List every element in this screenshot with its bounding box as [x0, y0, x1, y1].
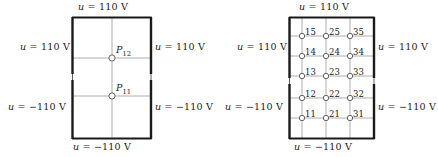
- node-number-25: 25: [329, 27, 340, 37]
- node-number-12: 12: [305, 89, 316, 99]
- label-right-upper-coarse: u = 110 V: [155, 41, 205, 52]
- coarse-grid-drawing: [0, 0, 219, 157]
- node-label-p11: P11: [116, 82, 131, 96]
- node-marker-p12: [109, 55, 115, 61]
- node-marker-33: [347, 73, 352, 78]
- node-marker-p11: [109, 93, 115, 99]
- node-marker-34: [347, 53, 352, 58]
- fine-grid-panel: u = 110 V u = 110 V u = 110 V u = −110 V…: [219, 0, 438, 157]
- node-marker-24: [323, 53, 328, 58]
- node-marker-14: [299, 53, 304, 58]
- node-number-34: 34: [353, 47, 364, 57]
- node-number-33: 33: [353, 67, 364, 77]
- node-marker-12: [299, 95, 304, 100]
- node-number-14: 14: [305, 47, 316, 57]
- label-left-lower-fine: u = −110 V: [225, 101, 283, 112]
- label-right-lower-fine: u = −110 V: [378, 101, 436, 112]
- label-bottom-fine: u = −110 V: [294, 141, 352, 152]
- label-bottom-coarse: u = −110 V: [73, 141, 131, 152]
- label-top-fine: u = 110 V: [299, 1, 349, 12]
- node-number-21: 21: [329, 109, 340, 119]
- node-marker-15: [299, 33, 304, 38]
- node-label-p12: P12: [116, 44, 131, 58]
- node-number-31: 31: [353, 109, 364, 119]
- label-left-lower-coarse: u = −110 V: [8, 101, 66, 112]
- node-marker-22: [323, 95, 328, 100]
- node-marker-35: [347, 33, 352, 38]
- fine-grid-drawing: [219, 0, 438, 157]
- node-marker-32: [347, 95, 352, 100]
- node-number-13: 13: [305, 67, 316, 77]
- label-right-upper-fine: u = 110 V: [378, 41, 428, 52]
- label-left-upper-fine: u = 110 V: [237, 41, 287, 52]
- node-marker-13: [299, 73, 304, 78]
- node-marker-31: [347, 115, 352, 120]
- label-left-upper-coarse: u = 110 V: [20, 41, 70, 52]
- label-right-lower-coarse: u = −110 V: [155, 101, 213, 112]
- node-number-35: 35: [353, 27, 364, 37]
- node-marker-21: [323, 115, 328, 120]
- grid-lines: [73, 17, 151, 139]
- node-number-24: 24: [329, 47, 340, 57]
- node-marker-23: [323, 73, 328, 78]
- figure-root: u = 110 V u = 110 V u = 110 V u = −110 V…: [0, 0, 438, 157]
- node-number-32: 32: [353, 89, 364, 99]
- label-top-coarse: u = 110 V: [78, 1, 128, 12]
- node-marker-11: [299, 115, 304, 120]
- node-number-22: 22: [329, 89, 340, 99]
- node-number-15: 15: [305, 27, 316, 37]
- node-number-11: 11: [305, 109, 316, 119]
- node-number-23: 23: [329, 67, 340, 77]
- node-marker-25: [323, 33, 328, 38]
- coarse-grid-panel: u = 110 V u = 110 V u = 110 V u = −110 V…: [0, 0, 219, 157]
